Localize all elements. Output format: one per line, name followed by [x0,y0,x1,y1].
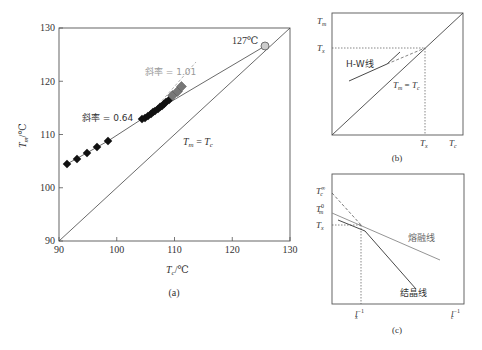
y-tick: 130 [40,22,55,33]
crystallization-extrapolation-dashed [332,193,362,226]
tm-eq-tc-line-b [332,13,463,135]
y-tick: 110 [40,129,55,140]
panel-b: Tm Tx Tx Tc H-W线 Tm = Tc (b) [317,13,463,163]
label-melting-line: 熔融线 [408,232,435,243]
y-label-tm-b: Tm [317,16,327,27]
y-tick: 90 [45,235,55,246]
y-tick-labels-a: 90 100 110 120 130 [40,22,55,246]
x-tick: 130 [283,244,298,255]
y-label-tc-inf: T∞c [316,185,325,197]
crystallization-line [338,220,416,289]
caption-c: (c) [392,325,402,335]
label-slope-1-01: 斜率 = 1.01 [145,66,196,77]
label-127c: 127℃ [232,35,258,46]
plot-frame-c [332,174,464,304]
label-tm-eq-tc-a: Tm = Tc [183,136,214,149]
y-label-tx-b: Tx [317,43,325,54]
label-tm-eq-tc-b: Tm = Tc [393,80,420,91]
x-tick: 90 [54,244,64,255]
tm-eq-tc-line-a [59,28,290,241]
x-axis-label-a: Tc/℃ [166,264,189,277]
label-crystallization-line: 结晶线 [400,287,427,298]
x-label-tx-b: Tx [420,138,428,149]
y-tick: 120 [40,76,55,87]
y-axis-label-a: Tm/℃ [17,123,30,148]
label-slope-0-64: 斜率 = 0.64 [82,112,134,123]
y-tick: 100 [40,182,55,193]
y-label-tm0: T0m [316,203,324,215]
intersection-point-marker [261,42,269,50]
x-tick: 100 [109,244,124,255]
x-label-lx: l−1x [354,308,364,320]
data-series-diamonds [63,96,173,168]
caption-a: (a) [168,287,179,299]
hw-extrapolation-dashed [387,48,425,64]
panel-a: 90 100 110 120 130 90 100 110 120 130 Tc… [17,22,298,299]
x-label-tc-b: Tc [449,138,457,149]
y-label-tx-c: Tx [316,220,324,231]
hw-line-upper [387,52,400,64]
panel-c: T∞c T0m Tx l−1x l−1c 熔融线 结晶线 (c) [316,174,464,335]
x-tick: 120 [225,244,240,255]
x-label-lc: l−1c [451,308,460,320]
label-hw-line: H-W线 [346,58,374,69]
x-tick-labels-a: 90 100 110 120 130 [54,244,298,255]
x-tick: 110 [167,244,182,255]
caption-b: (b) [392,153,403,163]
figure: 90 100 110 120 130 90 100 110 120 130 Tc… [0,0,482,350]
